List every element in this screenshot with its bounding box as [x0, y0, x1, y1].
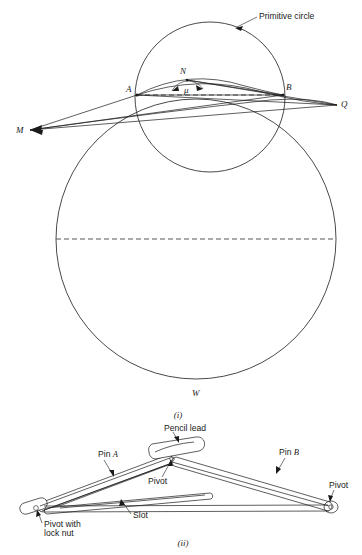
label-pin-b-letter: B — [294, 447, 300, 457]
pin-b-leader-arrow — [276, 466, 281, 474]
label-pin-b: Pin B — [279, 447, 300, 457]
label-pin-a: Pin A — [98, 449, 119, 459]
point-dot-b — [281, 93, 284, 96]
label-point-m: M — [15, 125, 24, 135]
label-pivot-lock-nut-line2: lock nut — [44, 528, 74, 538]
label-pin-a-letter: A — [112, 449, 119, 459]
label-point-n: N — [179, 66, 187, 76]
tie-left-to-right-lower — [44, 511, 329, 512]
angle-mu-tick-left — [172, 86, 179, 91]
primitive-circle-leader — [237, 17, 257, 27]
caption-panel-ii: (ii) — [178, 538, 189, 548]
label-point-a: A — [125, 84, 132, 94]
technical-figure: Primitive circle A B N M Q W μ (i) — [0, 0, 362, 555]
label-pivot-right: Pivot — [329, 480, 349, 490]
label-pin-b-prefix: Pin — [279, 447, 294, 457]
label-angle-mu: μ — [183, 85, 189, 95]
panel-i-diagram: Primitive circle A B N M Q W μ (i) — [15, 11, 348, 420]
label-point-b: B — [286, 82, 292, 92]
label-pin-a-prefix: Pin — [98, 449, 113, 459]
label-primitive-circle: Primitive circle — [259, 11, 315, 21]
caption-panel-i: (i) — [174, 410, 183, 420]
point-dot-a — [135, 93, 138, 96]
line-m-to-a — [30, 95, 137, 130]
bar-pin-b — [172, 457, 332, 511]
label-point-w: W — [192, 388, 201, 398]
label-slot: Slot — [133, 510, 148, 520]
label-pivot-center: Pivot — [148, 476, 168, 486]
label-pencil-lead: Pencil lead — [164, 423, 206, 433]
point-dot-n — [186, 79, 189, 82]
panel-ii-diagram: Pin A Pin B Pencil lead Pivot Pivot Pivo… — [20, 423, 349, 548]
primitive-circle — [135, 22, 285, 172]
label-point-q: Q — [341, 99, 348, 109]
arrowhead-m-lower — [30, 130, 43, 135]
